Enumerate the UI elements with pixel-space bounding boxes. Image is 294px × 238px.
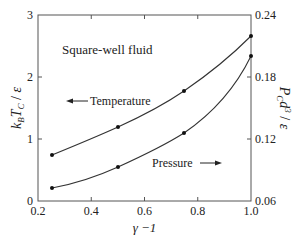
- svg-text:2: 2: [27, 70, 33, 84]
- svg-text:3: 3: [27, 8, 33, 22]
- y-tick-labels-right: 0.06 0.12 0.18 0.24: [255, 8, 276, 208]
- svg-text:0.6: 0.6: [137, 204, 152, 218]
- x-tick-labels: 0.2 0.4 0.6 0.8 1.0: [31, 204, 259, 218]
- svg-text:0.06: 0.06: [255, 194, 276, 208]
- arrow-left-head-icon: [66, 99, 73, 104]
- arrow-right-head-icon: [215, 161, 222, 166]
- svg-text:0: 0: [27, 194, 33, 208]
- y-axis-label-right: PCd3 / ε: [275, 86, 293, 130]
- svg-text:Temperature: Temperature: [90, 94, 150, 108]
- annotation-square-well-fluid: Square-well fluid: [62, 42, 153, 57]
- svg-text:0.8: 0.8: [190, 204, 205, 218]
- svg-text:0.18: 0.18: [255, 70, 276, 84]
- svg-text:Pressure: Pressure: [152, 156, 193, 170]
- pressure-label: Pressure: [152, 156, 222, 170]
- y-ticks-right: [247, 77, 251, 139]
- y-axis-label-left: kBTC / ε: [9, 87, 26, 129]
- svg-text:0.12: 0.12: [255, 132, 276, 146]
- temperature-label: Temperature: [66, 94, 150, 108]
- y-tick-labels-left: 0 1 2 3: [27, 8, 33, 208]
- x-axis-label: γ −1: [133, 220, 157, 235]
- svg-text:0.4: 0.4: [84, 204, 99, 218]
- y-ticks-left: [38, 77, 42, 139]
- chart: 0.2 0.4 0.6 0.8 1.0 0 1 2 3 0.06 0.12 0.…: [0, 0, 294, 238]
- svg-text:1: 1: [27, 132, 33, 146]
- svg-text:0.24: 0.24: [255, 8, 276, 22]
